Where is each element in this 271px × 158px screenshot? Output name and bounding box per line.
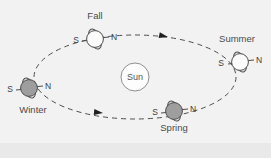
earth-winter-south-pole-label: S bbox=[7, 84, 13, 94]
seasons-diagram-figure: Sun S N Fall S N Summer S bbox=[0, 0, 271, 158]
earth-spring-globe bbox=[166, 103, 183, 120]
season-label-winter: Winter bbox=[19, 104, 46, 115]
season-label-summer: Summer bbox=[219, 33, 255, 44]
season-label-fall: Fall bbox=[87, 10, 102, 21]
earth-fall-globe bbox=[87, 31, 104, 48]
season-label-spring: Spring bbox=[160, 122, 187, 133]
earth-winter-globe bbox=[21, 80, 38, 97]
bottom-band bbox=[0, 143, 271, 158]
earth-winter-north-pole-label: N bbox=[45, 81, 51, 91]
earth-fall-north-pole-label: N bbox=[111, 32, 117, 42]
earth-fall-south-pole-label: S bbox=[73, 35, 79, 45]
earth-summer-north-pole-label: N bbox=[256, 55, 262, 65]
earth-spring-south-pole-label: S bbox=[152, 107, 158, 117]
sun-group: Sun bbox=[121, 63, 149, 91]
earth-summer-globe bbox=[232, 54, 249, 71]
sun-label: Sun bbox=[127, 72, 143, 82]
diagram-canvas: Sun S N Fall S N Summer S bbox=[0, 0, 271, 158]
earth-spring-north-pole-label: N bbox=[190, 104, 196, 114]
earth-summer-south-pole-label: S bbox=[218, 58, 224, 68]
